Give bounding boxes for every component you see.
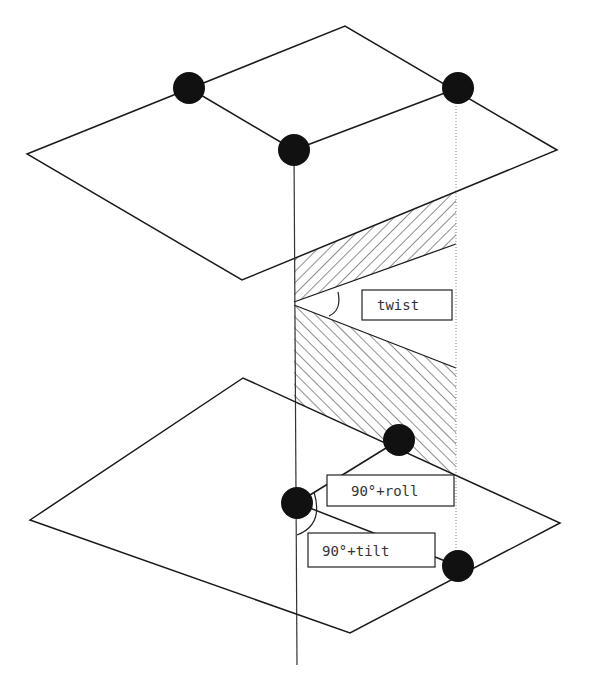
- lower-dot-center: [281, 487, 313, 519]
- tilt-label: 90°+tilt: [308, 533, 435, 567]
- roll-label: 90°+roll: [327, 475, 454, 506]
- twist-angle-arc: [329, 292, 339, 316]
- twist-label: twist: [362, 290, 452, 320]
- upper-dot-center: [278, 134, 310, 166]
- lower-dot-right: [442, 550, 474, 582]
- upper-plane-edge-right: [294, 88, 458, 150]
- roll-label-text: 90°+roll: [351, 483, 418, 499]
- tilt-label-text: 90°+tilt: [322, 543, 389, 559]
- vertical-axis-line: [294, 150, 297, 665]
- diagram-canvas: twist 90°+roll 90°+tilt: [0, 0, 590, 694]
- upper-dot-right: [442, 72, 474, 104]
- lower-hatched-region: [294, 305, 456, 475]
- upper-hatched-region: [294, 192, 456, 302]
- upper-dot-left: [173, 72, 205, 104]
- twist-label-text: twist: [377, 297, 419, 313]
- lower-dot-top: [383, 424, 415, 456]
- upper-plane-edge-left: [189, 88, 294, 150]
